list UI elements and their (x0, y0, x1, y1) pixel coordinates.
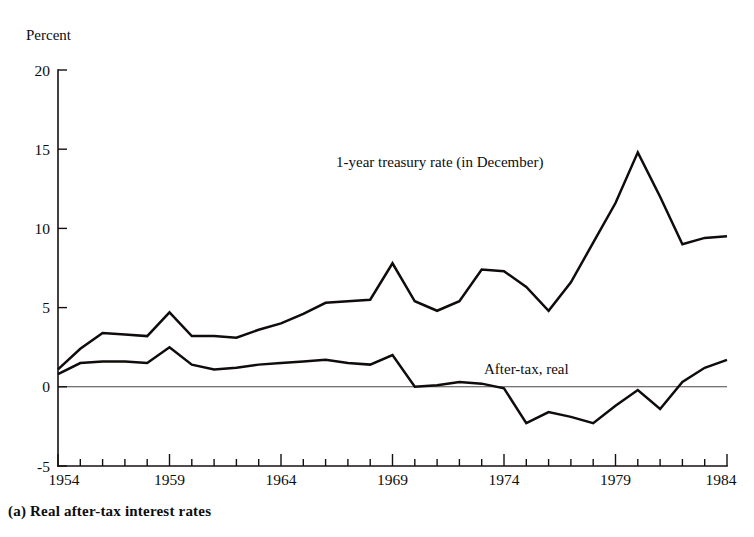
chart-plot-area: -505101520 1954195919641969197419791984 (35, 62, 737, 489)
data-series-group (58, 152, 727, 423)
x-axis-tick-label: 1979 (600, 471, 631, 488)
x-axis-tick-label: 1964 (266, 471, 297, 488)
x-axis-ticks (58, 454, 727, 466)
y-axis-tick-label: 0 (42, 378, 50, 395)
y-axis-tick-label: 15 (35, 141, 51, 158)
x-axis-tick-label: 1954 (49, 471, 80, 488)
x-axis-tick-label: 1974 (489, 471, 520, 488)
figure-panel: -505101520 1954195919641969197419791984 … (0, 0, 754, 537)
y-axis-unit-label: Percent (26, 27, 72, 43)
x-axis: 1954195919641969197419791984 (49, 454, 737, 488)
series-annotation-treasury: 1-year treasury rate (in December) (336, 154, 543, 171)
y-axis-tick-label: 10 (35, 220, 51, 237)
series-line-after-tax-real (58, 347, 727, 423)
line-chart: -505101520 1954195919641969197419791984 … (0, 0, 754, 537)
x-axis-tick-labels: 1954195919641969197419791984 (49, 471, 737, 488)
series-annotation-after-tax: After-tax, real (484, 361, 569, 377)
x-axis-tick-label: 1959 (154, 471, 185, 488)
y-axis: -505101520 (35, 62, 68, 475)
x-axis-tick-label: 1984 (706, 471, 737, 488)
series-line-treasury-rate (58, 152, 727, 369)
x-axis-tick-label: 1969 (377, 471, 408, 488)
y-axis-tick-label: 5 (42, 299, 50, 316)
y-axis-ticks (58, 70, 67, 466)
y-axis-tick-label: 20 (35, 62, 51, 79)
y-axis-tick-labels: -505101520 (35, 62, 51, 475)
figure-caption: (a) Real after-tax interest rates (8, 503, 211, 520)
